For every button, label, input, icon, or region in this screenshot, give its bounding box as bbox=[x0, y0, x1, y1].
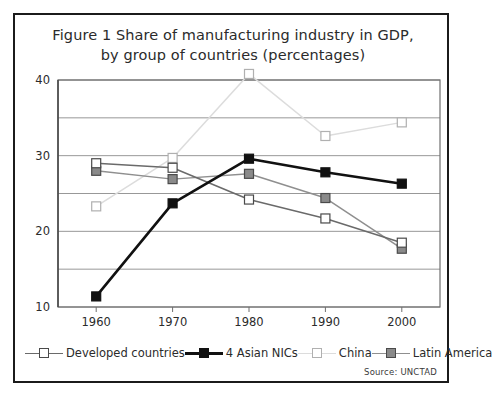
svg-text:40: 40 bbox=[35, 73, 50, 87]
legend-label-latin-america: Latin America bbox=[413, 346, 492, 360]
x-axis-tick-labels: 19601970198019902000 bbox=[82, 315, 417, 329]
chart-legend: Developed countries 4 Asian NICs China L… bbox=[25, 342, 441, 364]
y-axis-tick-labels: 10203040 bbox=[35, 73, 50, 314]
legend-marker-china bbox=[312, 348, 322, 358]
legend-label-4-asian-nics: 4 Asian NICs bbox=[226, 346, 298, 360]
svg-text:20: 20 bbox=[35, 224, 50, 238]
legend-label-developed-countries: Developed countries bbox=[66, 346, 185, 360]
svg-text:1990: 1990 bbox=[311, 315, 340, 329]
plot-area: 10203040 19601970198019902000 bbox=[15, 15, 451, 385]
legend-line-developed-countries bbox=[25, 353, 39, 354]
legend-line2-china bbox=[322, 353, 336, 354]
line-chart: 10203040 19601970198019902000 bbox=[15, 15, 451, 385]
legend-line-latin-america bbox=[372, 353, 386, 354]
legend-line2-latin-america bbox=[396, 353, 410, 354]
legend-item-developed-countries[interactable]: Developed countries bbox=[25, 346, 185, 360]
legend-label-china: China bbox=[339, 346, 372, 360]
svg-text:1960: 1960 bbox=[82, 315, 111, 329]
legend-item-latin-america[interactable]: Latin America bbox=[372, 346, 492, 360]
legend-item-china[interactable]: China bbox=[298, 346, 372, 360]
legend-line-4-asian-nics bbox=[185, 352, 199, 355]
legend-marker-latin-america bbox=[386, 348, 396, 358]
svg-text:30: 30 bbox=[35, 149, 50, 163]
source-note: Source: UNCTAD bbox=[364, 367, 437, 377]
legend-line-china bbox=[298, 353, 312, 354]
legend-line2-4-asian-nics bbox=[209, 352, 223, 355]
legend-marker-4-asian-nics bbox=[199, 348, 209, 358]
legend-item-4-asian-nics[interactable]: 4 Asian NICs bbox=[185, 346, 298, 360]
svg-text:10: 10 bbox=[35, 300, 50, 314]
legend-line2-developed-countries bbox=[49, 353, 63, 354]
svg-text:1970: 1970 bbox=[158, 315, 187, 329]
svg-text:2000: 2000 bbox=[387, 315, 416, 329]
legend-marker-developed-countries bbox=[39, 348, 49, 358]
series-lines bbox=[96, 74, 402, 296]
svg-text:1980: 1980 bbox=[234, 315, 263, 329]
x-axis-ticks bbox=[96, 307, 402, 312]
series-markers bbox=[92, 69, 407, 300]
figure-container: Figure 1 Share of manufacturing industry… bbox=[13, 13, 449, 383]
